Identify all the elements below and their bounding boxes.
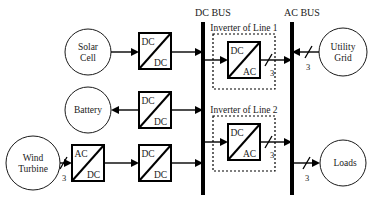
phase-label-inverter-2: 3	[270, 150, 274, 160]
battery-dc-dc-top-label: DC	[142, 96, 155, 106]
dc-bus-label: DC BUS	[195, 7, 231, 18]
arrowhead-dc-bus-to-inverter-2	[220, 138, 228, 146]
inverter-line-2-top-label: DC	[231, 128, 244, 138]
arrowhead-wind-turbine-to-converter	[64, 159, 72, 167]
ac-bus-label: AC BUS	[284, 7, 320, 18]
wind-dc-dc-bottom-label: DC	[154, 170, 167, 180]
solar-cell-label-line2: Cell	[80, 53, 96, 63]
loads-label: Loads	[333, 158, 357, 168]
solar-dc-dc-top-label: DC	[142, 37, 155, 47]
inverter-line-2-group-label: Inverter of Line 2	[210, 105, 278, 115]
arrowhead-dc-bus-to-inverter-1	[220, 56, 228, 64]
wind-ac-dc-bottom-label: DC	[87, 170, 100, 180]
inverter-line-1-bottom-label: AC	[243, 67, 256, 77]
arrowhead-converter-to-battery	[111, 106, 119, 114]
inverter-line-2-bottom-label: AC	[243, 149, 256, 159]
arrowhead-wind-ac-dc-to-dc-dc	[131, 159, 139, 167]
arrowhead-solar-to-converter	[131, 48, 139, 56]
utility-grid-node	[319, 28, 367, 76]
inverter-line-1-group-label: Inverter of Line 1	[210, 23, 278, 33]
wind-turbine-node	[6, 136, 60, 190]
wind-dc-dc-top-label: DC	[142, 149, 155, 159]
utility-grid-label-line1: Utility	[331, 42, 356, 52]
wind-turbine-label-line1: Wind	[23, 153, 44, 163]
battery-label: Battery	[74, 105, 102, 115]
phase-label-wind-turbine: 3	[62, 173, 66, 183]
solar-dc-dc-bottom-label: DC	[154, 58, 167, 68]
solar-cell-node	[65, 29, 111, 75]
diagram-canvas: DC BUS AC BUS Inverter of Line 1 Inverte…	[0, 0, 378, 205]
solar-cell-label-line1: Solar	[78, 42, 99, 52]
phase-label-utility-grid: 3	[306, 62, 310, 72]
phase-label-loads: 3	[305, 173, 309, 183]
wind-ac-dc-top-label: AC	[75, 149, 88, 159]
utility-grid-label-line2: Grid	[334, 53, 352, 63]
battery-dc-dc-bottom-label: DC	[154, 117, 167, 127]
power-system-diagram: DC BUS AC BUS Inverter of Line 1 Inverte…	[0, 0, 378, 205]
inverter-line-1-top-label: DC	[231, 46, 244, 56]
wind-turbine-label-line2: Turbine	[18, 164, 48, 174]
arrowhead-ac-bus-to-loads	[312, 159, 320, 167]
phase-label-inverter-1: 3	[270, 68, 274, 78]
